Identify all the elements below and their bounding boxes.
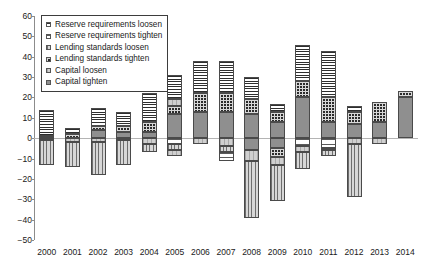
bar-segment[interactable] [347,144,362,197]
bar-segment[interactable] [347,124,362,138]
bar-segment[interactable] [219,152,234,160]
bar-segment[interactable] [270,138,285,148]
bar-segment[interactable] [295,45,310,82]
bar-segment[interactable] [270,157,285,165]
y-axis-tick-label: 10 [2,114,32,123]
bar-segment[interactable] [347,106,362,112]
bar-segment[interactable] [372,122,387,138]
bar-segment[interactable] [167,114,182,138]
bar-segment[interactable] [219,112,234,138]
bar-segment[interactable] [295,152,310,168]
bar-segment[interactable] [219,61,234,94]
bar-segment[interactable] [91,108,106,126]
y-axis-tick-label: −10 [2,155,32,164]
bar-segment[interactable] [270,165,285,202]
bar-segment[interactable] [91,126,106,130]
bar-segment[interactable] [321,138,336,148]
legend-item[interactable]: Capital tighten [46,77,162,89]
bar-segment[interactable] [398,97,413,138]
bar-segment[interactable] [167,106,182,114]
bar-segment[interactable] [193,93,208,111]
y-axis-tick-label: 50 [2,32,32,41]
legend-item[interactable]: Lending standards loosen [46,42,162,54]
bar-segment[interactable] [167,150,182,156]
bar-segment[interactable] [398,91,413,97]
bar-segment[interactable] [347,112,362,124]
bar-segment[interactable] [321,150,336,156]
bar-segment[interactable] [39,140,54,164]
x-axis-tick-label: 2005 [161,247,189,257]
bar-segment[interactable] [270,112,285,122]
bar-segment[interactable] [116,112,131,126]
bar-segment[interactable] [321,97,336,121]
bar-segment[interactable] [219,138,234,146]
bar-segment[interactable] [219,93,234,111]
x-axis-tick-label: 2012 [340,247,368,257]
legend-item[interactable]: Reserve requirements tighten [46,31,162,43]
bar-segment[interactable] [270,122,285,138]
bar-segment[interactable] [65,128,80,134]
x-axis-tick-label: 2009 [263,247,291,257]
bar-segment[interactable] [244,99,259,113]
bar-group[interactable] [270,16,285,240]
bar-segment[interactable] [193,61,208,94]
bar-segment[interactable] [142,144,157,152]
legend-item[interactable]: Capital loosen [46,65,162,77]
bar-segment[interactable] [116,126,131,132]
legend-item-label: Lending standards loosen [55,44,149,52]
bar-segment[interactable] [295,138,310,146]
bar-segment[interactable] [244,161,259,218]
y-axis-tick-mark [31,138,34,139]
legend-item-label: Reserve requirements loosen [55,21,162,29]
bar-group[interactable] [347,16,362,240]
y-axis-tick-mark [31,240,34,241]
bar-group[interactable] [193,16,208,240]
x-axis-tick-label: 2014 [391,247,419,257]
bar-segment[interactable] [167,99,182,105]
y-axis-tick-label: −50 [2,236,32,245]
bar-segment[interactable] [91,142,106,175]
bar-segment[interactable] [193,112,208,138]
bar-segment[interactable] [295,81,310,97]
y-axis-tick-label: 20 [2,93,32,102]
bar-segment[interactable] [39,110,54,136]
bar-segment[interactable] [244,138,259,150]
bar-segment[interactable] [116,140,131,164]
bar-segment[interactable] [321,122,336,138]
bar-segment[interactable] [244,114,259,138]
y-axis-tick-mark [31,36,34,37]
bar-group[interactable] [244,16,259,240]
legend-item-label: Reserve requirements tighten [55,32,162,40]
bar-group[interactable] [398,16,413,240]
x-axis-tick-label: 2002 [84,247,112,257]
bar-segment[interactable] [65,142,80,166]
bar-segment[interactable] [372,138,387,144]
x-axis-tick-label: 2011 [314,247,342,257]
y-axis-tick-label: 60 [2,12,32,21]
y-axis-tick-mark [31,57,34,58]
bar-segment[interactable] [91,130,106,138]
bar-segment[interactable] [295,97,310,138]
bar-segment[interactable] [142,122,157,132]
legend-swatch-icon [46,22,51,27]
bar-segment[interactable] [193,138,208,144]
y-axis-tick-label: −40 [2,216,32,225]
bar-group[interactable] [321,16,336,240]
legend-item-label: Lending standards tighten [55,55,149,63]
bar-segment[interactable] [142,93,157,122]
bar-segment[interactable] [321,51,336,98]
bar-segment[interactable] [270,104,285,112]
legend-swatch-icon [46,80,51,85]
y-axis-tick-label: −20 [2,175,32,184]
bar-group[interactable] [219,16,234,240]
bar-group[interactable] [372,16,387,240]
bar-segment[interactable] [244,150,259,160]
bar-segment[interactable] [244,77,259,99]
legend-item[interactable]: Lending standards tighten [46,54,162,66]
bar-group[interactable] [167,16,182,240]
bar-segment[interactable] [167,75,182,99]
bar-segment[interactable] [372,102,387,122]
bar-segment[interactable] [270,148,285,156]
bar-group[interactable] [295,16,310,240]
legend-item[interactable]: Reserve requirements loosen [46,19,162,31]
